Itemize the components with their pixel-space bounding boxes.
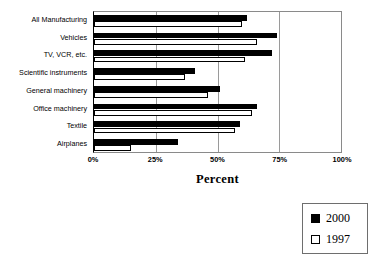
x-axis-tick-label: 75% <box>272 155 287 165</box>
x-axis-tick-label: 25% <box>148 155 163 165</box>
category-label: General machinery <box>0 87 87 95</box>
category-label: Scientific instruments <box>0 69 87 77</box>
bar-chart: All ManufacturingVehiclesTV, VCR, etc.Sc… <box>0 0 376 264</box>
bar-group <box>94 65 341 83</box>
x-axis-title: Percent <box>93 172 342 187</box>
legend-swatch-filled-square <box>311 214 320 223</box>
bar-1997 <box>94 21 242 27</box>
legend-item-2000: 2000 <box>311 211 350 225</box>
bar-2000 <box>94 50 272 56</box>
bar-1997 <box>94 145 131 151</box>
bar-1997 <box>94 39 257 45</box>
bar-2000 <box>94 139 178 145</box>
category-label: Airplanes <box>0 140 87 148</box>
category-label: Textile <box>0 122 87 130</box>
bar-2000 <box>94 86 220 92</box>
bar-1997 <box>94 74 185 80</box>
legend-label-1997: 1997 <box>326 233 350 245</box>
x-axis-tick-label: 100% <box>333 155 352 165</box>
bar-1997 <box>94 92 208 98</box>
bar-2000 <box>94 68 195 74</box>
category-axis-labels: All ManufacturingVehiclesTV, VCR, etc.Sc… <box>0 11 90 153</box>
bar-group <box>94 136 341 154</box>
bar-group <box>94 101 341 119</box>
bar-1997 <box>94 57 245 63</box>
bar-2000 <box>94 121 240 127</box>
legend-swatch-open-square <box>311 235 320 244</box>
x-axis-tick-label: 50% <box>210 155 225 165</box>
category-label: All Manufacturing <box>0 16 87 24</box>
bar-group <box>94 12 341 30</box>
legend-label-2000: 2000 <box>326 212 350 224</box>
bar-2000 <box>94 15 247 21</box>
bar-group <box>94 48 341 66</box>
category-label: TV, VCR, etc. <box>0 51 87 59</box>
category-label: Vehicles <box>0 34 87 42</box>
bar-1997 <box>94 110 252 116</box>
bar-1997 <box>94 128 235 134</box>
bar-2000 <box>94 104 257 110</box>
legend-item-1997: 1997 <box>311 232 350 246</box>
x-axis-tick-label: 0% <box>88 155 99 165</box>
bar-group <box>94 83 341 101</box>
bar-group <box>94 119 341 137</box>
plot-area <box>93 11 342 153</box>
x-axis-tick-labels: 0%25%50%75%100% <box>93 155 342 167</box>
bar-group <box>94 30 341 48</box>
category-label: Office machinery <box>0 105 87 113</box>
bar-2000 <box>94 33 277 39</box>
chart-legend: 2000 1997 <box>302 203 368 254</box>
